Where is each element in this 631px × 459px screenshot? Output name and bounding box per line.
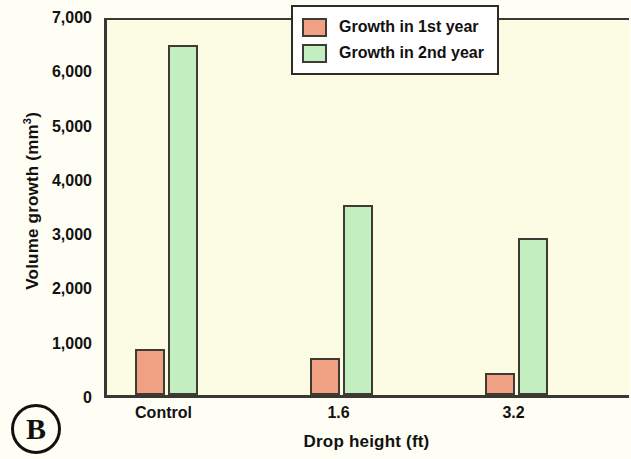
y-axis-tick-labels: 01,0002,0003,0004,0005,0006,0007,000 xyxy=(22,0,92,459)
legend-item-label: Growth in 2nd year xyxy=(339,44,484,62)
plot-area xyxy=(104,18,629,398)
x-axis-tick-label: Control xyxy=(135,404,192,422)
legend: Growth in 1st yearGrowth in 2nd year xyxy=(291,5,499,75)
bars-layer xyxy=(107,20,629,395)
x-axis-tick-labels: Control1.63.2 xyxy=(104,404,629,428)
legend-item-label: Growth in 1st year xyxy=(339,18,479,36)
y-axis-tick-label: 2,000 xyxy=(30,280,92,298)
x-axis-tick-label: 3.2 xyxy=(502,404,524,422)
legend-swatch-icon xyxy=(302,44,327,63)
bar-chart-figure: Volume growth (mm3) 01,0002,0003,0004,00… xyxy=(0,0,631,459)
panel-label-b: B xyxy=(11,404,61,454)
x-axis-title: Drop height (ft) xyxy=(104,432,629,452)
legend-swatch-icon xyxy=(302,18,327,37)
bar xyxy=(135,349,165,395)
y-axis-tick-label: 5,000 xyxy=(30,118,92,136)
bar xyxy=(343,205,373,395)
bar xyxy=(518,238,548,395)
y-axis-tick-label: 1,000 xyxy=(30,335,92,353)
x-axis-tick-label: 1.6 xyxy=(327,404,349,422)
legend-item: Growth in 1st year xyxy=(302,14,484,40)
bar xyxy=(168,45,198,395)
y-axis-tick-label: 4,000 xyxy=(30,172,92,190)
bar xyxy=(310,358,340,395)
y-axis-tick-label: 3,000 xyxy=(30,226,92,244)
bar xyxy=(485,373,515,395)
legend-item: Growth in 2nd year xyxy=(302,40,484,66)
y-axis-tick-label: 7,000 xyxy=(30,9,92,27)
y-axis-tick-label: 6,000 xyxy=(30,63,92,81)
